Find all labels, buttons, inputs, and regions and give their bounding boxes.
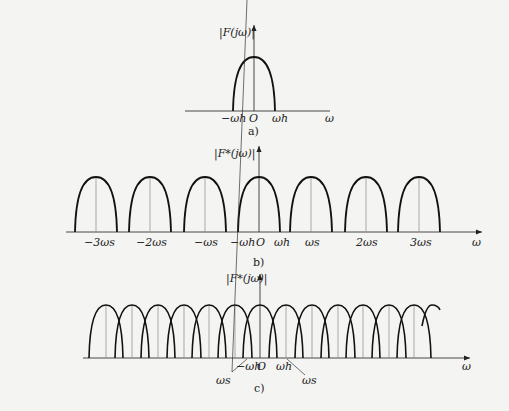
tick-label: ωs xyxy=(305,236,320,249)
callout-label: ωs xyxy=(216,374,231,387)
y-axis-label: |F(jω)| xyxy=(219,26,255,40)
panel-a: |F(jω)| −ωh O ωh ω a) xyxy=(185,25,334,138)
tick-label: 2ωs xyxy=(355,236,378,249)
panel-caption: c) xyxy=(254,382,264,395)
origin-label: O xyxy=(257,360,266,373)
x-axis-label: ω xyxy=(472,236,481,249)
overlapping-spectrum-lobes xyxy=(89,305,440,358)
x-axis-label: ω xyxy=(325,112,334,125)
tick-label: ωh xyxy=(272,112,288,125)
tick-label: −ωs xyxy=(194,236,218,249)
spectrum-lobes xyxy=(75,177,440,232)
y-axis-label: |F*(jω)| xyxy=(226,272,268,286)
panel-caption: a) xyxy=(248,125,259,138)
tick-label: ωh xyxy=(274,236,290,249)
x-axis-label: ω xyxy=(462,360,471,373)
tick-label: −2ωs xyxy=(136,236,167,249)
panel-b: |F*(jω)| −3ωs −2ωs −ωs −ωh O ωh ωs 2ωs 3… xyxy=(66,146,482,269)
origin-label: O xyxy=(256,236,265,249)
panel-caption: b) xyxy=(253,256,264,269)
callout-label: ωs xyxy=(302,374,317,387)
tick-label: ωh xyxy=(276,360,292,373)
spectrum-figure: |F(jω)| −ωh O ωh ω a) |F*(jω)| −3ωs xyxy=(0,0,509,411)
origin-label: O xyxy=(249,112,258,125)
y-axis-label: |F*(jω)| xyxy=(214,147,256,161)
tick-label: 3ωs xyxy=(410,236,432,249)
tick-label: −3ωs xyxy=(84,236,115,249)
tick-label: −ωh xyxy=(230,236,255,249)
